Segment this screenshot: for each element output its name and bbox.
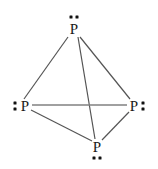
bond-left-bottom [31, 110, 92, 141]
atom-label-p-left: P [21, 99, 29, 114]
lewis-structure-diagram: P P P P [0, 0, 158, 169]
bond-lines-layer [0, 0, 158, 169]
lone-pair-p-bottom [93, 157, 102, 160]
atom-label-p-top: P [70, 22, 78, 37]
lone-pair-p-left [14, 102, 17, 111]
atom-label-p-right: P [130, 99, 138, 114]
bond-right-bottom [102, 112, 129, 140]
lone-pair-dot [76, 16, 79, 19]
lone-pair-dot [142, 102, 145, 105]
bond-top-left [24, 37, 68, 99]
bond-top-right [80, 37, 130, 99]
lone-pair-dot [142, 108, 145, 111]
lone-pair-p-right [142, 102, 145, 111]
lone-pair-dot [14, 102, 17, 105]
lone-pair-p-top [70, 16, 79, 19]
lone-pair-dot [14, 108, 17, 111]
atom-label-p-bottom: P [93, 140, 101, 155]
lone-pair-dot [93, 157, 96, 160]
lone-pair-dot [99, 157, 102, 160]
lone-pair-dot [70, 16, 73, 19]
